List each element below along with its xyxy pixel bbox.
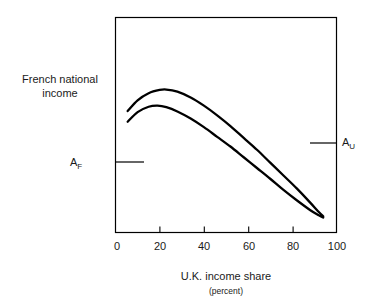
x-axis-label: U.K. income share <box>115 270 337 282</box>
plot-area <box>0 0 380 305</box>
chart-figure: French national income 0 20 40 60 80 100… <box>0 0 380 305</box>
a-f-subscript: F <box>77 162 82 171</box>
a-u-annotation-label: AU <box>342 136 355 148</box>
y-axis-label-line-2: income <box>8 86 112 100</box>
x-tick-label-100: 100 <box>322 240 352 252</box>
x-axis-label-sub: (percent) <box>115 286 337 296</box>
x-tick-label-60: 60 <box>234 240 264 252</box>
x-tick-label-20: 20 <box>145 240 175 252</box>
a-f-annotation-label: AF <box>70 156 82 168</box>
a-u-subscript: U <box>349 142 355 151</box>
plot-frame <box>116 18 337 233</box>
x-tick-label-80: 80 <box>278 240 308 252</box>
x-tick-label-0: 0 <box>102 240 132 252</box>
x-tick-label-40: 40 <box>189 240 219 252</box>
y-axis-label: French national income <box>8 72 112 100</box>
y-axis-label-line-1: French national <box>8 72 112 86</box>
